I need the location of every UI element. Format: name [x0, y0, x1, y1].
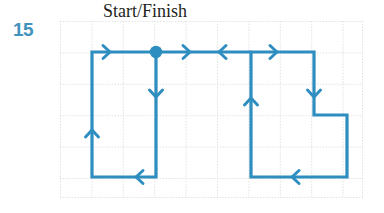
start-finish-label: Start/Finish [103, 2, 187, 21]
worksheet-page: 15 [0, 0, 384, 213]
start-finish-dot [150, 46, 162, 58]
grid-path-figure [0, 0, 384, 213]
